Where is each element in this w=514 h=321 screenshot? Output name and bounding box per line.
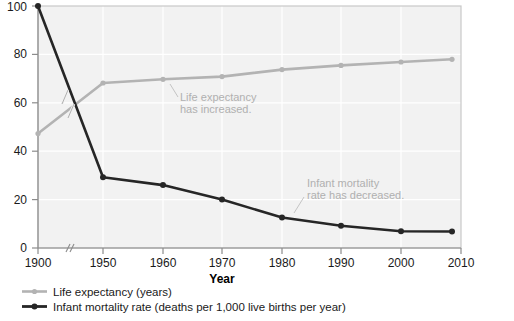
legend: Life expectancy (years) Infant mortality…	[22, 286, 346, 313]
x-tick-label-2000: 2000	[388, 256, 415, 270]
legend-label-infant-mortality: Infant mortality rate (deaths per 1,000 …	[53, 301, 346, 313]
x-tick-label-1970: 1970	[209, 256, 236, 270]
x-axis-title: Year	[209, 272, 235, 286]
y-tick-label-80: 80	[14, 47, 28, 61]
y-tick-label-0: 0	[20, 241, 27, 255]
infant-mortality-annotation-line2: rate has decreased.	[307, 189, 404, 201]
plot-area-background	[38, 6, 461, 248]
y-tick-label-40: 40	[14, 144, 28, 158]
y-tick-label-20: 20	[14, 193, 28, 207]
y-tick-label-100: 100	[7, 0, 27, 14]
legend-item-infant-mortality[interactable]: Infant mortality rate (deaths per 1,000 …	[22, 301, 346, 313]
legend-item-life-expectancy[interactable]: Life expectancy (years)	[22, 286, 172, 298]
legend-label-life-expectancy: Life expectancy (years)	[53, 286, 172, 298]
x-tick-label-1990: 1990	[328, 256, 355, 270]
x-tick-label-1900: 1900	[25, 256, 52, 270]
legend-marker-infant-mortality	[32, 304, 38, 310]
legend-marker-life-expectancy	[32, 289, 37, 294]
x-tick-label-1980: 1980	[269, 256, 296, 270]
x-tick-label-2010: 2010	[448, 256, 475, 270]
x-tick-label-1950: 1950	[90, 256, 117, 270]
line-chart: 0 20 40 60 80 100 1900 1950 1960 1970 19…	[0, 0, 514, 321]
x-axis-ticks	[38, 248, 461, 254]
infant-mortality-annotation-line1: Infant mortality	[307, 177, 380, 189]
y-axis-ticks	[32, 6, 38, 248]
x-tick-label-1960: 1960	[150, 256, 177, 270]
y-tick-label-60: 60	[14, 96, 28, 110]
life-expectancy-annotation-line2: has increased.	[180, 103, 252, 115]
chart-container: 0 20 40 60 80 100 1900 1950 1960 1970 19…	[0, 0, 514, 321]
life-expectancy-annotation-line1: Life expectancy	[180, 91, 257, 103]
